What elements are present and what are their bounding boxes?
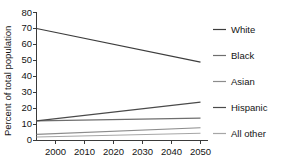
line-chart-figure: Percent of total population 0 10 20 30 4…	[0, 0, 292, 164]
legend-item-label: Hispanic	[231, 102, 268, 113]
y-axis-title: Percent of total population	[2, 26, 13, 136]
x-tick-label-2020: 2020	[103, 146, 124, 157]
axis-frame	[37, 12, 209, 141]
legend: White Black Asian Hispanic All other	[213, 24, 268, 139]
y-tick-marks	[33, 13, 37, 141]
y-tick-label-0: 0	[27, 134, 32, 145]
y-tick-label-70: 70	[21, 22, 32, 33]
y-tick-label-50: 50	[21, 54, 32, 65]
series-line-white	[37, 29, 201, 63]
legend-item-label: All other	[231, 128, 266, 139]
y-tick-label-30: 30	[21, 86, 32, 97]
x-tick-label-2050: 2050	[190, 146, 211, 157]
y-tick-label-20: 20	[21, 102, 32, 113]
legend-item-black[interactable]: Black	[213, 50, 254, 61]
y-tick-label-40: 40	[21, 70, 32, 81]
chart-canvas: Percent of total population 0 10 20 30 4…	[0, 0, 292, 164]
y-tick-label-80: 80	[21, 7, 32, 18]
legend-item-hispanic[interactable]: Hispanic	[213, 102, 268, 113]
x-tick-marks	[56, 141, 201, 145]
legend-item-label: Black	[231, 50, 254, 61]
x-tick-label-2040: 2040	[161, 146, 182, 157]
y-tick-label-60: 60	[21, 38, 32, 49]
y-tick-label-10: 10	[21, 118, 32, 129]
legend-item-all-other[interactable]: All other	[213, 128, 266, 139]
legend-item-asian[interactable]: Asian	[213, 76, 255, 87]
legend-item-white[interactable]: White	[213, 24, 255, 35]
x-tick-label-2010: 2010	[74, 146, 95, 157]
x-tick-label-2030: 2030	[132, 146, 153, 157]
legend-item-label: White	[231, 24, 255, 35]
x-tick-label-2000: 2000	[45, 146, 66, 157]
legend-item-label: Asian	[231, 76, 255, 87]
series-lines	[37, 29, 201, 137]
